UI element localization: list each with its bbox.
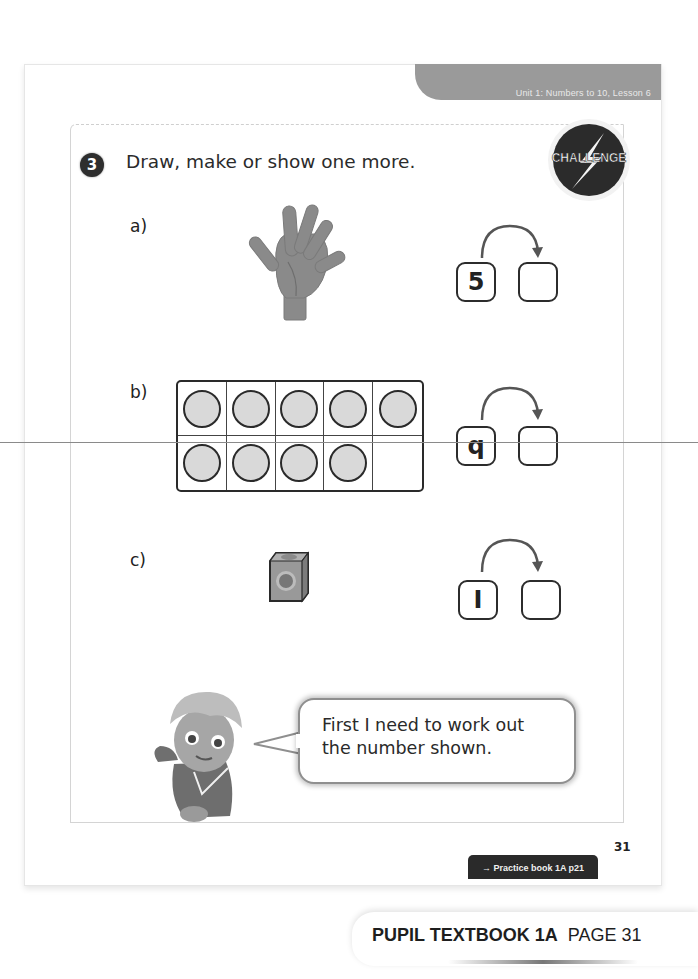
start-number-box-c: I bbox=[458, 580, 498, 620]
answer-box-c[interactable] bbox=[521, 580, 561, 620]
ten-frame-cell bbox=[178, 382, 227, 436]
pupil-textbook-banner: PUPIL TEXTBOOK 1A PAGE 31 bbox=[352, 912, 698, 966]
start-number-box-a: 5 bbox=[456, 262, 496, 302]
ten-frame-cell bbox=[276, 382, 325, 436]
cube-icon bbox=[266, 549, 316, 607]
speech-line-1: First I need to work out bbox=[322, 714, 574, 737]
answer-box-b[interactable] bbox=[518, 426, 558, 466]
banner-page-label: PAGE 31 bbox=[568, 925, 642, 945]
page-number: 31 bbox=[614, 840, 631, 854]
ten-frame bbox=[176, 380, 424, 492]
ten-frame-cell bbox=[324, 382, 373, 436]
part-c-label: c) bbox=[130, 550, 146, 570]
scan-line bbox=[0, 442, 698, 443]
counter-icon bbox=[329, 390, 367, 428]
counter-icon bbox=[280, 444, 318, 482]
ten-frame-cell bbox=[373, 382, 422, 436]
ten-frame-cell bbox=[227, 382, 276, 436]
character-avatar bbox=[144, 676, 254, 830]
one-more-arrow-icon bbox=[474, 222, 546, 262]
counter-icon bbox=[379, 390, 417, 428]
unit-lesson-label: Unit 1: Numbers to 10, Lesson 6 bbox=[516, 88, 651, 98]
speech-line-2: the number shown. bbox=[322, 737, 574, 760]
question-prompt: Draw, make or show one more. bbox=[126, 151, 415, 172]
counter-icon bbox=[232, 390, 270, 428]
ten-frame-cell bbox=[324, 436, 373, 490]
ten-frame-cell bbox=[178, 436, 227, 490]
unit-lesson-tab: Unit 1: Numbers to 10, Lesson 6 bbox=[415, 64, 661, 100]
hand-icon bbox=[246, 200, 354, 326]
bubble-tail-cover bbox=[296, 734, 304, 748]
counter-icon bbox=[329, 444, 367, 482]
one-more-arrow-icon bbox=[474, 536, 546, 576]
ten-frame-cell bbox=[227, 436, 276, 490]
counter-icon bbox=[183, 390, 221, 428]
start-number-box-b: q bbox=[456, 426, 496, 466]
ten-frame-cell bbox=[276, 436, 325, 490]
one-more-arrow-icon bbox=[474, 384, 546, 424]
counter-icon bbox=[183, 444, 221, 482]
challenge-badge-icon: CHALLENGE bbox=[546, 117, 632, 203]
question-number-badge: 3 bbox=[80, 153, 104, 177]
ten-frame-cell-empty bbox=[373, 436, 422, 490]
counter-icon bbox=[232, 444, 270, 482]
banner-underline bbox=[448, 960, 638, 964]
answer-box-a[interactable] bbox=[518, 262, 558, 302]
speech-bubble: First I need to work out the number show… bbox=[298, 698, 576, 784]
banner-book-title: PUPIL TEXTBOOK 1A bbox=[372, 925, 558, 945]
practice-book-link[interactable]: → Practice book 1A p21 bbox=[468, 855, 598, 879]
counter-icon bbox=[280, 390, 318, 428]
challenge-label: CHALLENGE bbox=[552, 151, 627, 165]
part-b-label: b) bbox=[130, 382, 147, 402]
part-a-label: a) bbox=[130, 216, 147, 236]
